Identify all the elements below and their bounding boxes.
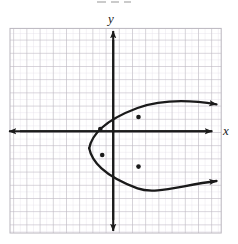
point-marker [98, 127, 103, 132]
graph-figure: y x [0, 0, 238, 244]
y-axis-label: y [108, 12, 114, 25]
point-marker [136, 115, 141, 120]
point-marker [100, 153, 105, 158]
x-axis-label: x [223, 124, 229, 137]
point-marker [136, 164, 141, 169]
coordinate-plane [0, 0, 238, 244]
